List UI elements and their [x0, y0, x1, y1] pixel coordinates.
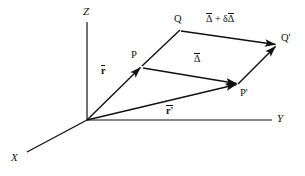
point-label-q-prime: Q': [281, 33, 290, 44]
edge-pprime-to-qprime: [238, 47, 276, 85]
coordinate-axes: [27, 22, 272, 152]
vector-label-delta: Δ: [194, 54, 200, 64]
vector-label-r-text: r: [101, 66, 105, 76]
vector-label-r-prime: r': [166, 106, 173, 116]
vector-delta-plus-variation-arrow: [181, 31, 276, 45]
delta-base-symbol: Δ: [206, 14, 212, 24]
y-axis-label: Y: [277, 113, 283, 124]
vector-r-prime-arrow: [87, 85, 237, 121]
plus-operator: +: [212, 13, 223, 24]
point-label-q: Q: [174, 14, 182, 25]
vector-label-r: r: [101, 66, 105, 76]
vector-diagram-figure: Z Y X P Q P' Q' r r' Δ Δ + δΔ: [0, 0, 305, 176]
vector-delta-arrow: [143, 68, 237, 84]
vector-label-delta-plus-variation: Δ + δΔ: [206, 14, 234, 24]
point-label-p: P: [131, 50, 137, 61]
delta-variation-base-symbol: Δ: [228, 14, 234, 24]
diagram-canvas: [0, 0, 305, 176]
z-axis-label: Z: [83, 6, 89, 17]
x-axis-line: [27, 120, 87, 152]
point-label-p-prime: P': [240, 88, 248, 99]
vector-label-delta-text: Δ: [194, 54, 200, 64]
edge-p-to-q: [142, 30, 180, 66]
parallelogram-edges: [142, 30, 276, 84]
x-axis-label: X: [11, 152, 18, 163]
vector-r-arrow: [87, 68, 141, 121]
vector-label-r-prime-text: r': [166, 106, 173, 116]
